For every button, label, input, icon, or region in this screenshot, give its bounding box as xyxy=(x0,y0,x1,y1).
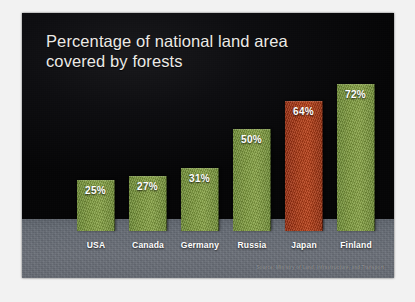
bar-germany[interactable]: 31% xyxy=(181,168,219,231)
presentation-slide: Percentage of national land area covered… xyxy=(22,13,394,278)
bar-value-japan: 64% xyxy=(285,106,322,117)
category-label-germany: Germany xyxy=(173,240,227,250)
bar-value-usa: 25% xyxy=(77,185,114,196)
source-note: Source: Ministry of Land, Infrastructure… xyxy=(256,265,384,270)
bar-japan[interactable]: 64% xyxy=(285,101,323,231)
bar-group-usa: 25%USA xyxy=(77,180,115,231)
category-label-usa: USA xyxy=(69,240,123,250)
bar-group-canada: 27%Canada xyxy=(129,176,167,231)
bar-canada[interactable]: 27% xyxy=(129,176,167,231)
bar-chart-plot-area: 25%USA27%Canada31%Germany50%Russia64%Jap… xyxy=(22,13,394,278)
bar-russia[interactable]: 50% xyxy=(233,129,271,231)
category-label-japan: Japan xyxy=(277,240,331,250)
category-label-canada: Canada xyxy=(121,240,175,250)
category-label-finland: Finland xyxy=(329,240,383,250)
bar-group-japan: 64%Japan xyxy=(285,101,323,231)
bar-value-russia: 50% xyxy=(233,134,270,145)
bar-finland[interactable]: 72% xyxy=(337,84,375,231)
category-label-russia: Russia xyxy=(225,240,279,250)
bar-usa[interactable]: 25% xyxy=(77,180,115,231)
bar-group-finland: 72%Finland xyxy=(337,84,375,231)
bar-group-russia: 50%Russia xyxy=(233,129,271,231)
bar-value-finland: 72% xyxy=(337,89,374,100)
bar-value-canada: 27% xyxy=(129,181,166,192)
slide-frame: Percentage of national land area covered… xyxy=(0,0,415,302)
bar-value-germany: 31% xyxy=(181,173,218,184)
bar-group-germany: 31%Germany xyxy=(181,168,219,231)
